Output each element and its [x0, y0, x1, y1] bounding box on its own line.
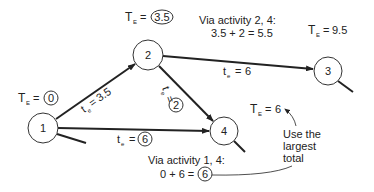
svg-text:6: 6: [275, 103, 281, 115]
svg-text:6: 6: [142, 133, 148, 145]
node-2: 2: [133, 40, 163, 70]
edge-1-4: [58, 128, 209, 131]
svg-text:=: =: [129, 133, 135, 145]
svg-text:e: e: [227, 73, 231, 79]
svg-text:=: =: [33, 92, 39, 104]
svg-text:T: T: [18, 91, 26, 105]
tail-node-4: [234, 141, 245, 152]
svg-text:t: t: [117, 133, 120, 145]
te-node-1: T E = 0: [18, 91, 58, 106]
svg-text:E: E: [26, 100, 30, 106]
via-24-calc: 3.5 + 2 = 5.5: [211, 27, 273, 39]
note-line-1: Use the: [283, 128, 321, 140]
pert-network-diagram: 1 2 3 4 T E = 0 T E = 3.5 T E = 9.5 Via …: [0, 0, 374, 192]
te-node-4: T E = 6: [250, 102, 281, 117]
via-24-title: Via activity 2, 4:: [199, 14, 276, 26]
svg-text:3.5: 3.5: [154, 11, 169, 23]
svg-text:T: T: [125, 10, 133, 24]
tail-node-3: [338, 81, 353, 92]
note-line-2: largest: [283, 140, 316, 152]
note-line-3: total: [283, 152, 304, 164]
svg-text:e: e: [121, 141, 125, 147]
svg-text:E: E: [316, 32, 320, 38]
via-14-result: 6: [198, 167, 212, 181]
svg-text:T: T: [250, 102, 258, 116]
edge-label-2-3: t e = 6: [223, 65, 251, 79]
note-connector: [212, 166, 292, 175]
node-1-label: 1: [40, 122, 46, 134]
node-4-label: 4: [221, 125, 227, 137]
note-arrow-up: [285, 109, 296, 126]
svg-text:T: T: [308, 23, 316, 37]
node-4: 4: [210, 117, 238, 145]
svg-text:=: =: [235, 65, 241, 77]
via-14-calc: 0 + 6 =: [160, 168, 194, 180]
svg-text:0: 0: [48, 92, 54, 104]
svg-text:9.5: 9.5: [332, 24, 347, 36]
node-3-label: 3: [325, 65, 331, 77]
svg-text:=: =: [323, 24, 329, 36]
edge-label-2-4-value: 2: [169, 98, 183, 112]
edge-label-1-4: t e = 6: [117, 132, 152, 147]
node-3: 3: [314, 57, 342, 85]
svg-text:=: =: [140, 11, 146, 23]
svg-text:6: 6: [202, 168, 208, 180]
svg-text:2: 2: [173, 99, 179, 111]
node-1: 1: [28, 113, 58, 143]
svg-text:=: =: [265, 103, 271, 115]
svg-text:6: 6: [245, 65, 251, 77]
tail-node-1: [57, 134, 86, 143]
te-node-3: T E = 9.5: [308, 23, 347, 38]
edge-1-2: [56, 64, 135, 119]
svg-text:t: t: [160, 85, 172, 92]
svg-text:e: e: [160, 91, 167, 97]
svg-text:3.5: 3.5: [94, 85, 113, 104]
via-14-title: Via activity 1, 4:: [148, 154, 225, 166]
te-node-2: T E = 3.5: [125, 10, 173, 25]
node-2-label: 2: [145, 49, 151, 61]
svg-text:t: t: [223, 65, 226, 77]
svg-text:E: E: [133, 19, 137, 25]
svg-text:E: E: [258, 111, 262, 117]
